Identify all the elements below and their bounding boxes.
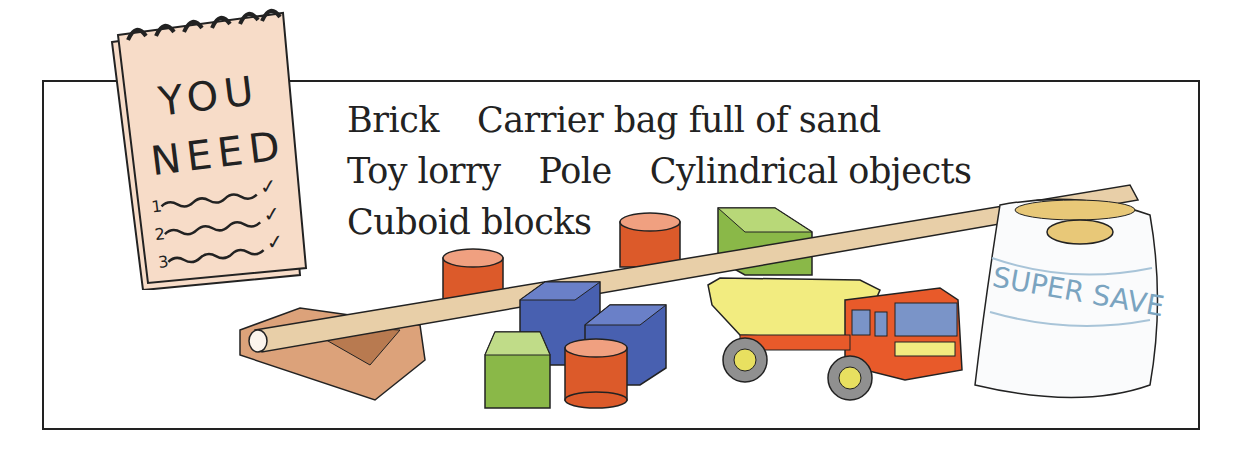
check-icon: ✓ (265, 229, 285, 255)
you-need-notepad: YOU NEED 1 ✓ 2 ✓ 3 ✓ (0, 0, 330, 290)
check-icon: ✓ (258, 173, 278, 199)
cylinder-icon (620, 213, 680, 267)
cylinder-icon (565, 339, 627, 408)
carrier-bag-icon: SUPER SAVE (975, 199, 1167, 397)
toy-lorry-icon (708, 278, 962, 400)
green-block-icon (485, 332, 550, 408)
check-icon: ✓ (262, 201, 282, 227)
